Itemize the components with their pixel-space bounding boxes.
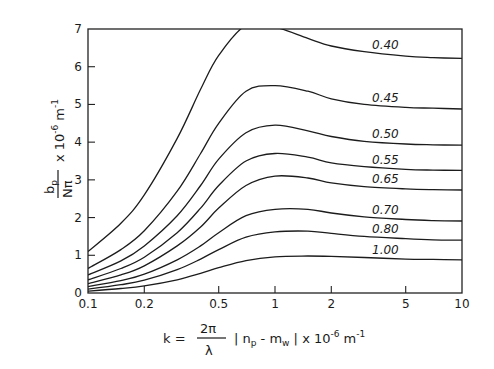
chart: 01234567 0.10.20.512510 0.400.450.500.55…	[0, 0, 494, 369]
curve-0.40	[88, 23, 462, 251]
x-tick-label: 1	[271, 297, 279, 311]
y-title-numerator: bp	[42, 180, 59, 194]
x-tick-label: 0.1	[78, 297, 97, 311]
x-title-body: | np - mw | x 10-6 m-1	[234, 329, 365, 348]
x-axis-ticks: 0.10.20.512510	[78, 286, 469, 311]
x-title-frac-num: 2π	[200, 321, 216, 336]
y-title-denominator: Nπ	[60, 180, 75, 198]
x-tick-label: 5	[402, 297, 410, 311]
curve-0.80	[88, 231, 462, 289]
y-title-suffix: x 10-6m-1	[50, 99, 67, 162]
y-tick-label: 3	[74, 173, 82, 187]
curve-label: 0.50	[372, 127, 399, 141]
y-tick-label: 5	[74, 97, 82, 111]
curve-label: 1.00	[372, 243, 399, 257]
curve-labels: 0.400.450.500.550.650.700.801.00	[372, 38, 399, 257]
x-axis-title: k = 2π λ | np - mw | x 10-6 m-1	[163, 321, 365, 358]
plot-frame	[88, 29, 462, 293]
curves	[88, 23, 462, 291]
curve-0.50	[88, 125, 462, 275]
y-axis-ticks: 01234567	[74, 22, 95, 300]
curve-label: 0.45	[372, 91, 399, 105]
x-tick-label: 2	[327, 297, 335, 311]
x-title-prefix: k =	[163, 331, 186, 346]
curve-label: 0.70	[372, 203, 399, 217]
curve-label: 0.40	[372, 38, 399, 52]
y-tick-label: 7	[74, 22, 82, 36]
curve-label: 0.65	[372, 172, 399, 186]
y-tick-label: 4	[74, 135, 82, 149]
x-tick-label: 0.2	[135, 297, 154, 311]
y-tick-label: 6	[74, 60, 82, 74]
curve-0.65	[88, 176, 462, 284]
curve-label: 0.55	[372, 153, 399, 167]
curve-0.70	[88, 209, 462, 287]
x-title-frac-den: λ	[205, 343, 213, 358]
curve-0.55	[88, 153, 462, 279]
x-tick-label: 0.5	[209, 297, 228, 311]
curve-label: 0.80	[372, 222, 399, 236]
plot-border	[88, 29, 462, 293]
y-axis-title: bp Nπ x 10-6m-1	[42, 99, 75, 198]
x-tick-label: 10	[454, 297, 469, 311]
y-tick-label: 2	[74, 211, 82, 225]
y-tick-label: 1	[74, 248, 82, 262]
curve-0.45	[88, 86, 462, 269]
